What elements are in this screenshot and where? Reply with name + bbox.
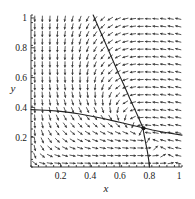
field-arrow-head (122, 33, 125, 36)
y-tick-label: 0.4 (15, 103, 27, 113)
field-arrow-head (145, 25, 147, 28)
x-tick-label: 0.6 (114, 171, 126, 181)
field-arrow-head (33, 88, 36, 90)
field-arrow-head (64, 42, 67, 44)
field-arrow-head (56, 80, 59, 82)
field-arrow-head (152, 33, 154, 36)
field-arrow-head (48, 27, 51, 29)
x-axis-title: x (103, 182, 109, 194)
field-arrow-head (152, 78, 154, 81)
field-arrow-head (41, 65, 44, 67)
plot-frame (31, 15, 182, 167)
field-arrow-head (130, 18, 132, 21)
field-arrow-head (126, 147, 128, 150)
field-arrow-head (145, 63, 147, 66)
field-arrow-head (33, 20, 36, 22)
field-arrow-head (137, 55, 139, 58)
field-arrow-head (152, 25, 154, 28)
field-arrow-head (137, 101, 139, 104)
field-arrow-head (64, 80, 67, 82)
y-axis-tick-labels: 0.20.40.60.81 (15, 13, 27, 142)
y-tick-label: 0.2 (15, 133, 27, 143)
field-arrow-head (41, 42, 44, 44)
field-arrow-head (152, 40, 154, 43)
field-arrow-head (33, 126, 36, 128)
field-arrow-head (141, 154, 143, 157)
field-arrow-head (71, 19, 74, 22)
y-tick-label: 1 (22, 13, 27, 23)
direction-field-plot: 0.20.40.60.81 0.20.40.60.81 x y (0, 0, 195, 199)
nullcline-curves (31, 15, 182, 167)
field-arrow-head (71, 88, 74, 90)
field-arrow-head (145, 109, 147, 112)
field-arrow-head (34, 133, 37, 135)
phase-plane-figure: 0.20.40.60.81 0.20.40.60.81 x y (0, 0, 195, 199)
field-arrow-head (56, 19, 59, 21)
field-arrow-head (49, 65, 52, 67)
field-arrow-head (41, 80, 44, 82)
field-arrow-head (64, 73, 67, 75)
field-arrow-head (41, 126, 44, 129)
field-arrow-head (137, 86, 139, 89)
field-arrow-head (145, 93, 147, 96)
field-arrow-head (137, 33, 139, 36)
field-arrow-head (49, 42, 52, 44)
field-arrow-head (33, 96, 36, 98)
field-arrow-head (49, 73, 52, 75)
field-arrow-head (71, 73, 74, 75)
field-arrow-head (33, 111, 36, 113)
field-arrow-head (56, 27, 59, 29)
field-arrow-head (122, 25, 125, 28)
field-arrow-head (49, 35, 52, 37)
field-arrow-head (137, 63, 139, 66)
field-arrow-head (103, 162, 105, 165)
field-arrow-head (152, 86, 154, 89)
y-tick-label: 0.6 (15, 73, 27, 83)
field-arrow-head (41, 103, 44, 105)
field-arrow-head (126, 162, 128, 165)
field-arrow-head (33, 65, 36, 67)
field-arrow-head (66, 162, 68, 165)
field-arrow-head (56, 35, 59, 37)
field-arrow-head (86, 80, 89, 82)
field-arrow-head (41, 58, 44, 60)
field-arrow-head (137, 78, 139, 81)
field-arrow-head (41, 73, 44, 75)
field-arrow-head (137, 25, 139, 28)
field-arrow-head (152, 55, 154, 58)
field-arrow-head (137, 109, 139, 112)
field-arrow-head (41, 50, 44, 52)
field-arrow-head (86, 65, 89, 68)
field-arrow-head (156, 154, 158, 157)
field-arrow-head (141, 147, 143, 150)
x-tick-label: 0.2 (55, 171, 67, 181)
field-arrow-head (145, 101, 147, 104)
nullcline-curve (31, 110, 182, 135)
field-arrow-head (49, 88, 52, 90)
x-tick-label: 1 (177, 171, 182, 181)
field-arrow-head (101, 103, 104, 105)
field-arrow-head (103, 154, 105, 157)
field-arrow-head (56, 65, 59, 67)
field-arrow-head (33, 73, 36, 75)
field-arrow-head (119, 154, 121, 157)
field-arrow-head (175, 162, 178, 165)
field-arrow-head (33, 118, 36, 120)
x-tick-label: 0.4 (84, 171, 96, 181)
field-arrow-head (149, 154, 151, 157)
field-arrow-head (41, 27, 44, 29)
field-arrow-head (33, 58, 36, 60)
field-arrow-head (96, 162, 98, 165)
field-arrow-head (96, 154, 98, 157)
field-arrow-head (145, 86, 147, 89)
field-arrow-head (71, 80, 74, 82)
field-arrow-head (64, 58, 67, 60)
field-arrow-head (71, 57, 74, 59)
field-arrow-head (33, 80, 36, 82)
fixed-point-marker (141, 126, 145, 130)
field-arrow-head (152, 48, 154, 51)
field-arrow-head (137, 93, 139, 96)
field-arrow-head (33, 103, 36, 105)
field-arrow-head (145, 33, 147, 36)
field-arrow-head (141, 139, 143, 142)
